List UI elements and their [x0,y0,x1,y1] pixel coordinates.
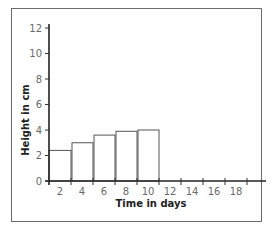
x-tick-label: 6 [101,186,107,197]
bar-8 [116,131,137,181]
x-tick-label: 18 [230,186,243,197]
x-axis-title: Time in days [115,198,186,209]
bar-chart: 02468101224681012141618Time in daysHeigh… [0,0,272,232]
bar-6 [94,135,115,181]
y-tick-label: 12 [29,23,42,34]
x-tick-label: 16 [208,186,221,197]
y-tick-label: 6 [36,99,42,110]
x-tick-label: 8 [123,186,129,197]
x-tick-label: 10 [142,186,155,197]
bar-10 [138,130,159,181]
y-tick-label: 2 [36,150,42,161]
y-tick-label: 4 [36,125,42,136]
bar-4 [72,143,93,181]
y-tick-label: 8 [36,74,42,85]
x-tick-label: 4 [79,186,85,197]
y-tick-label: 10 [29,48,42,59]
x-tick-label: 2 [57,186,63,197]
y-axis-title: Height in cm [20,84,31,156]
x-tick-label: 14 [186,186,199,197]
x-tick-label: 12 [164,186,177,197]
y-tick-label: 0 [36,176,42,187]
bar-2 [49,150,71,181]
